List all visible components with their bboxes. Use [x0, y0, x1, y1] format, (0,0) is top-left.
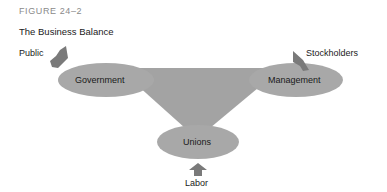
management-label: Management: [268, 75, 321, 85]
unions-label: Unions: [183, 137, 211, 147]
business-balance-diagram: [0, 0, 387, 192]
public-label: Public: [19, 48, 44, 58]
public-arrow-icon: [50, 46, 68, 68]
government-label: Government: [75, 75, 125, 85]
labor-label: Labor: [185, 178, 208, 188]
labor-arrow-icon: [189, 163, 207, 176]
stockholders-label: Stockholders: [306, 48, 358, 58]
